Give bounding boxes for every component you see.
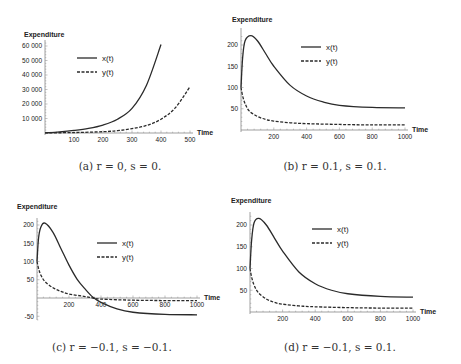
x-tick-label-c: 600 <box>128 301 139 308</box>
x-tick-label-d: 600 <box>342 315 353 322</box>
figure-canvas: 10020030040050010 00020 00030 00040 0005… <box>0 0 461 364</box>
series-xt-b <box>241 36 405 108</box>
series-yt-c <box>37 262 197 301</box>
y-tick-label-b: 150 <box>227 63 238 70</box>
y-tick-label-c: 100 <box>23 258 34 265</box>
x-tick-label-a: 400 <box>156 136 167 143</box>
legend-label-y-c: y(t) <box>122 253 134 262</box>
caption-c: (c) r = −0.1, s = −0.1. <box>52 341 172 353</box>
y-tick-label-c: -50 <box>25 313 35 320</box>
series-yt-d <box>250 269 413 309</box>
y-tick-label-a: 60 000 <box>22 42 42 49</box>
x-tick-label-a: 500 <box>185 136 196 143</box>
y-tick-label-d: 100 <box>236 265 247 272</box>
y-tick-label-a: 10 000 <box>22 115 42 122</box>
legend-label-x-a: x(t) <box>102 54 114 63</box>
x-tick-label-b: 800 <box>367 133 378 140</box>
y-axis-title-a: Expenditure <box>24 31 65 39</box>
legend-label-y-d: y(t) <box>337 239 349 248</box>
x-axis-title-d: Time <box>420 308 436 315</box>
series-yt-b <box>241 88 405 125</box>
x-tick-label-c: 200 <box>64 301 75 308</box>
y-tick-label-d: 50 <box>240 287 248 294</box>
y-tick-label-a: 40 000 <box>22 71 42 78</box>
x-tick-label-b: 200 <box>268 133 279 140</box>
y-tick-label-d: 200 <box>236 221 247 228</box>
x-axis-title-b: Time <box>412 126 428 133</box>
y-tick-label-c: 50 <box>27 276 35 283</box>
x-tick-label-d: 1000 <box>406 315 421 322</box>
x-tick-label-c: 800 <box>160 301 171 308</box>
x-tick-label-d: 200 <box>277 315 288 322</box>
x-tick-label-a: 300 <box>127 136 138 143</box>
y-tick-label-a: 50 000 <box>22 57 42 64</box>
series-yt-a <box>45 87 190 133</box>
caption-b: (b) r = 0.1, s = 0.1. <box>283 160 386 172</box>
x-tick-label-b: 1000 <box>398 133 413 140</box>
x-tick-label-b: 400 <box>301 133 312 140</box>
y-tick-label-a: 30 000 <box>22 86 42 93</box>
legend-label-x-b: x(t) <box>326 43 338 52</box>
x-axis-title-a: Time <box>197 129 213 136</box>
caption-d: (d) r = −0.1, s = 0.1. <box>284 341 396 353</box>
series-xt-d <box>250 218 413 297</box>
legend-label-y-b: y(t) <box>326 57 338 66</box>
y-axis-title-b: Expenditure <box>232 16 273 24</box>
legend-label-x-d: x(t) <box>337 225 349 234</box>
y-tick-label-b: 100 <box>227 84 238 91</box>
x-tick-label-d: 800 <box>375 315 386 322</box>
y-tick-label-c: 200 <box>23 221 34 228</box>
x-axis-title-c: Time <box>204 294 220 301</box>
x-tick-label-a: 200 <box>98 136 109 143</box>
y-tick-label-c: 150 <box>23 240 34 247</box>
y-tick-label-d: 150 <box>236 243 247 250</box>
caption-a: (a) r = 0, s = 0. <box>79 160 162 172</box>
y-tick-label-b: 200 <box>227 41 238 48</box>
x-tick-label-c: 1000 <box>190 301 205 308</box>
legend-label-x-c: x(t) <box>122 239 134 248</box>
x-tick-label-a: 100 <box>69 136 80 143</box>
y-axis-title-c: Expenditure <box>17 203 58 211</box>
legend-label-y-a: y(t) <box>102 68 114 77</box>
y-axis-title-d: Expenditure <box>231 197 272 205</box>
y-tick-label-b: 50 <box>231 105 239 112</box>
x-tick-label-d: 400 <box>310 315 321 322</box>
x-tick-label-b: 600 <box>334 133 345 140</box>
y-tick-label-a: 20 000 <box>22 100 42 107</box>
